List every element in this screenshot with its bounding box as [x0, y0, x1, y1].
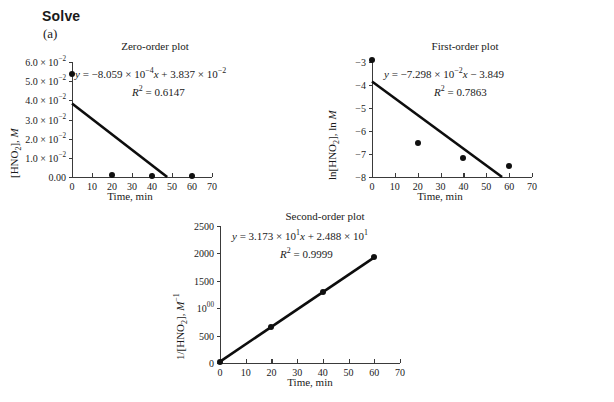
- regression-line-second-order: [180, 208, 480, 398]
- data-point: [217, 359, 223, 365]
- data-point: [320, 289, 326, 295]
- chart-zero-order: Zero-order plot y = −8.059 × 10−4x + 3.8…: [0, 38, 300, 208]
- solve-heading: Solve: [42, 8, 80, 24]
- regression-line-zero-order: [0, 38, 300, 228]
- data-point: [69, 71, 75, 77]
- data-point: [369, 57, 375, 63]
- chart-second-order: Second-order plot y = 3.173 × 101x + 2.4…: [180, 208, 480, 398]
- data-point: [109, 172, 115, 178]
- figure-canvas: Solve (a) Zero-order plot y = −8.059 × 1…: [0, 0, 614, 402]
- data-point: [189, 173, 195, 179]
- data-point: [415, 140, 421, 146]
- regression-line-first-order: [310, 38, 610, 228]
- data-point: [149, 173, 155, 179]
- chart-first-order: First-order plot y = −7.298 × 10−2x − 3.…: [310, 38, 610, 208]
- data-point: [371, 254, 377, 260]
- data-point: [506, 163, 512, 169]
- data-point: [460, 155, 466, 161]
- data-point: [268, 324, 274, 330]
